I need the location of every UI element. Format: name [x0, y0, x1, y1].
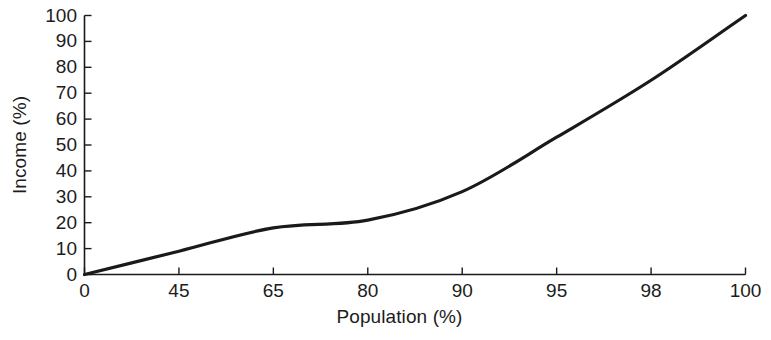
- data-series-group: [85, 16, 746, 275]
- income-distribution-curve: [85, 16, 746, 275]
- plot-area: [0, 0, 771, 340]
- lorenz-curve-chart: 0102030405060708090100 0456580909598100 …: [0, 0, 771, 340]
- axis-lines: [85, 16, 746, 275]
- tick-marks: [85, 16, 746, 275]
